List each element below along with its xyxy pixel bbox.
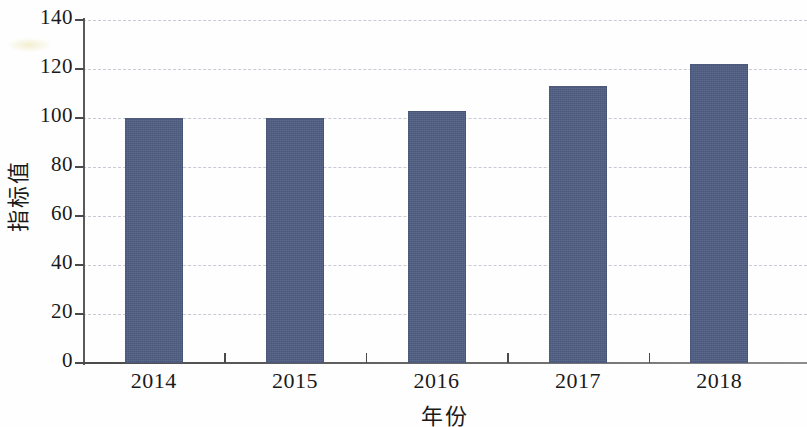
x-axis-title: 年份 xyxy=(83,398,807,427)
x-axis-tick-label: 2018 xyxy=(659,368,779,394)
y-axis-tick xyxy=(75,166,84,168)
y-axis-tick xyxy=(75,68,84,70)
y-axis-tick-label: 140 xyxy=(13,5,73,30)
x-axis-tick xyxy=(366,353,368,363)
bar xyxy=(125,118,183,363)
y-axis-tick-label: 20 xyxy=(13,299,73,324)
y-axis-tick-label: 40 xyxy=(13,250,73,275)
x-axis-tick-label: 2015 xyxy=(235,368,355,394)
bar xyxy=(266,118,324,363)
bar-chart: 020406080100120140 20142015201620172018 … xyxy=(0,0,807,427)
x-axis-tick xyxy=(507,353,509,363)
gridline xyxy=(83,20,807,21)
x-axis-tick-label: 2017 xyxy=(518,368,638,394)
bar xyxy=(690,64,748,363)
y-axis-tick xyxy=(75,215,84,217)
y-axis-tick xyxy=(75,264,84,266)
x-axis-tick xyxy=(224,353,226,363)
y-axis-tick-label: 100 xyxy=(13,103,73,128)
bar xyxy=(549,86,607,363)
x-axis-tick-label: 2014 xyxy=(94,368,214,394)
x-axis-tick xyxy=(649,353,651,363)
y-axis-title: 指标值 xyxy=(0,146,32,246)
x-axis-tick-label: 2016 xyxy=(377,368,497,394)
y-axis-tick xyxy=(75,19,84,21)
y-axis-tick xyxy=(75,117,84,119)
bar xyxy=(408,111,466,363)
y-axis-tick xyxy=(75,313,84,315)
y-axis-tick-label: 0 xyxy=(13,348,73,373)
y-axis-tick-label: 120 xyxy=(13,54,73,79)
y-axis-tick xyxy=(75,362,84,364)
